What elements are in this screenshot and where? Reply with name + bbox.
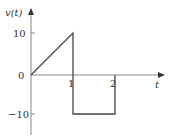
y-axis-arrow-icon — [28, 8, 34, 15]
ytick-0-label: 0 — [18, 70, 24, 81]
signal-line — [31, 33, 115, 114]
ytick-10-label: 10 — [13, 28, 26, 39]
xtick-1-label: 1 — [68, 78, 74, 89]
x-axis-arrow-icon — [158, 72, 165, 78]
x-axis-label: t — [155, 79, 160, 90]
y-axis-label: v(t) — [5, 7, 23, 18]
waveform-chart: v(t) 10 0 −10 1 2 t — [0, 0, 175, 140]
xtick-2-label: 2 — [110, 78, 116, 89]
ytick-neg10-label: −10 — [8, 109, 29, 120]
